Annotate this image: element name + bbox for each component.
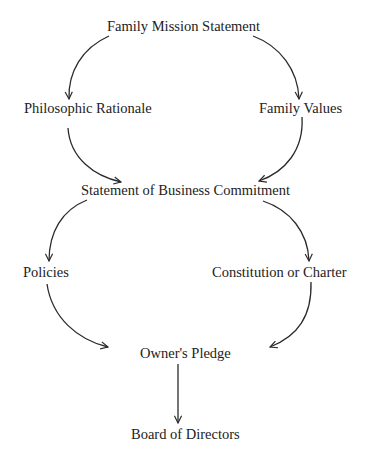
- arrow-mission-to-rationale: [69, 36, 109, 99]
- node-constitution-or-charter: Constitution or Charter: [212, 265, 347, 280]
- arrow-commitment-to-policies: [49, 200, 87, 261]
- node-philosophic-rationale: Philosophic Rationale: [24, 101, 152, 116]
- node-owners-pledge: Owner's Pledge: [140, 346, 231, 361]
- arrow-constitution-to-pledge: [270, 282, 311, 347]
- node-family-values: Family Values: [259, 101, 342, 116]
- arrow-rationale-to-commitment: [68, 128, 121, 182]
- node-board-of-directors: Board of Directors: [131, 427, 240, 442]
- node-statement-of-business-commitment: Statement of Business Commitment: [81, 183, 290, 198]
- node-family-mission-statement: Family Mission Statement: [107, 19, 260, 34]
- arrow-policies-to-pledge: [47, 284, 108, 347]
- arrow-values-to-commitment: [259, 117, 302, 181]
- node-policies: Policies: [23, 265, 69, 280]
- arrow-commitment-to-constitution: [263, 201, 309, 261]
- arrow-mission-to-values: [253, 36, 299, 99]
- arrows-layer: [0, 0, 370, 465]
